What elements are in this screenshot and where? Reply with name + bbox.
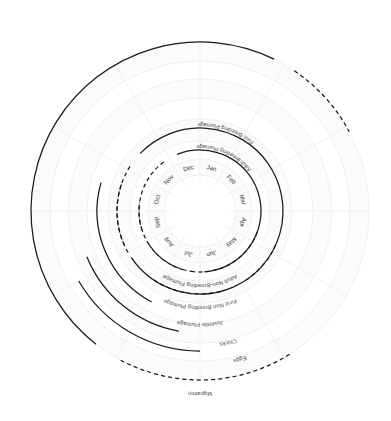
ring-label: Migration xyxy=(188,391,213,397)
polar-chart-canvas: Adult Breeding PlumageFirst Breeding Plu… xyxy=(0,0,391,421)
ring-label-text: Migration xyxy=(188,391,213,397)
radial-phenology-chart: Adult Breeding PlumageFirst Breeding Plu… xyxy=(0,0,391,421)
